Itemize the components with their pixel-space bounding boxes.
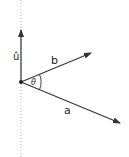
angle-arc: [40, 74, 42, 89]
origin-point: [19, 80, 23, 84]
vector-diagram: û b a θ: [0, 0, 129, 157]
angle-theta-label: θ: [31, 78, 36, 87]
vector-a-label: a: [64, 104, 71, 117]
unit-vector-label: û: [13, 51, 19, 62]
vector-b-label: b: [51, 54, 58, 67]
